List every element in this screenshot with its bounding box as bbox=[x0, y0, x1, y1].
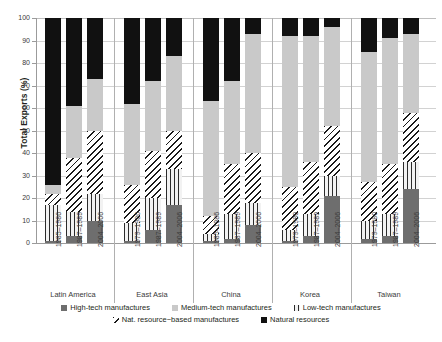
segment-low-tech bbox=[166, 169, 182, 205]
legend-swatch-icon bbox=[61, 305, 67, 311]
segment-natural-resources bbox=[303, 18, 319, 36]
x-axis-tick-label: 2004–2006 bbox=[334, 212, 341, 247]
segment-medium-tech bbox=[382, 38, 398, 164]
segment-natural-resources bbox=[282, 18, 298, 36]
x-axis-tick-label: 1985–1986 bbox=[213, 212, 220, 247]
group-separator bbox=[272, 18, 273, 303]
legend-swatch-icon bbox=[172, 305, 178, 311]
legend-label: High-tech manufactures bbox=[70, 303, 150, 312]
stacked-bar[interactable] bbox=[403, 18, 419, 243]
stacked-bar[interactable] bbox=[124, 18, 140, 243]
segment-low-tech bbox=[403, 162, 419, 189]
segment-nat-resource-based bbox=[224, 164, 240, 214]
segment-nat-resource-based bbox=[303, 162, 319, 214]
stacked-bar[interactable] bbox=[145, 18, 161, 243]
stacked-bar[interactable] bbox=[224, 18, 240, 243]
x-axis-tick-label: 1979–1980 bbox=[134, 212, 141, 247]
legend-swatch-icon bbox=[113, 317, 119, 323]
segment-medium-tech bbox=[303, 36, 319, 162]
segment-nat-resource-based bbox=[166, 131, 182, 169]
legend-row: High-tech manufacturesMedium-tech manufa… bbox=[0, 303, 442, 312]
segment-natural-resources bbox=[45, 18, 61, 185]
segment-medium-tech bbox=[282, 36, 298, 187]
segment-natural-resources bbox=[87, 18, 103, 79]
y-axis-tick-label: 30 bbox=[0, 172, 30, 179]
segment-natural-resources bbox=[324, 18, 340, 27]
segment-nat-resource-based bbox=[66, 158, 82, 212]
segment-nat-resource-based bbox=[245, 153, 261, 203]
stacked-bar[interactable] bbox=[382, 18, 398, 243]
y-axis-tick-label: 90 bbox=[0, 37, 30, 44]
legend-swatch-icon bbox=[294, 305, 300, 311]
y-axis-tick-label: 20 bbox=[0, 194, 30, 201]
group-separator bbox=[351, 18, 352, 303]
segment-natural-resources bbox=[403, 18, 419, 34]
y-axis-tick-label: 60 bbox=[0, 104, 30, 111]
y-axis-tick-label: 0 bbox=[0, 239, 30, 246]
segment-natural-resources bbox=[203, 18, 219, 101]
x-axis-tick-label: 1987–1989 bbox=[155, 212, 162, 247]
x-axis-tick-label: 2004–2006 bbox=[97, 212, 104, 247]
group-separator bbox=[193, 18, 194, 303]
stacked-bar[interactable] bbox=[203, 18, 219, 243]
stacked-bar[interactable] bbox=[361, 18, 377, 243]
segment-nat-resource-based bbox=[324, 126, 340, 176]
x-axis-tick-label: 1979–1980 bbox=[371, 212, 378, 247]
legend-label: Nat. resource−based manufactures bbox=[122, 315, 239, 324]
legend-item[interactable]: Low-tech manufactures bbox=[294, 303, 381, 312]
y-axis-tick-label: 50 bbox=[0, 127, 30, 134]
stacked-bar[interactable] bbox=[45, 18, 61, 243]
segment-medium-tech bbox=[224, 81, 240, 164]
legend-row: Nat. resource−based manufacturesNatural … bbox=[0, 315, 442, 324]
segment-medium-tech bbox=[361, 52, 377, 183]
segment-natural-resources bbox=[66, 18, 82, 106]
legend-item[interactable]: Medium-tech manufactures bbox=[172, 303, 272, 312]
segment-natural-resources bbox=[124, 18, 140, 104]
stacked-bar[interactable] bbox=[66, 18, 82, 243]
legend-label: Low-tech manufactures bbox=[303, 303, 381, 312]
legend-label: Medium-tech manufactures bbox=[181, 303, 272, 312]
legend-label: Natural resources bbox=[270, 315, 329, 324]
x-axis-tick-label: 2004–2006 bbox=[255, 212, 262, 247]
y-axis-tick-label: 40 bbox=[0, 149, 30, 156]
segment-medium-tech bbox=[324, 27, 340, 126]
segment-medium-tech bbox=[87, 79, 103, 131]
segment-medium-tech bbox=[145, 81, 161, 151]
stacked-bar[interactable] bbox=[324, 18, 340, 243]
segment-nat-resource-based bbox=[87, 131, 103, 194]
x-axis-tick-label: 1987–1989 bbox=[392, 212, 399, 247]
segment-nat-resource-based bbox=[45, 194, 61, 205]
segment-natural-resources bbox=[145, 18, 161, 81]
x-axis-group-label: Taiwan bbox=[340, 290, 438, 299]
segment-nat-resource-based bbox=[403, 113, 419, 163]
segment-natural-resources bbox=[361, 18, 377, 52]
segment-natural-resources bbox=[224, 18, 240, 81]
stacked-bar[interactable] bbox=[245, 18, 261, 243]
group-separator bbox=[114, 18, 115, 303]
stacked-bar[interactable] bbox=[87, 18, 103, 243]
segment-medium-tech bbox=[403, 34, 419, 113]
segment-nat-resource-based bbox=[145, 151, 161, 198]
segment-natural-resources bbox=[245, 18, 261, 34]
x-axis-tick-label: 1979–1980 bbox=[292, 212, 299, 247]
x-axis-tick-label: 2004–2006 bbox=[413, 212, 420, 247]
x-axis-tick-label: 2004–2006 bbox=[176, 212, 183, 247]
y-axis-tick-label: 70 bbox=[0, 82, 30, 89]
x-axis-tick-label: 1985–1986 bbox=[55, 212, 62, 247]
segment-medium-tech bbox=[166, 56, 182, 130]
y-axis-tick-label: 10 bbox=[0, 217, 30, 224]
legend-item[interactable]: High-tech manufactures bbox=[61, 303, 150, 312]
x-axis-tick-label: 1987–1989 bbox=[76, 212, 83, 247]
segment-natural-resources bbox=[166, 18, 182, 56]
chart-legend: High-tech manufacturesMedium-tech manufa… bbox=[0, 303, 442, 327]
stacked-bar[interactable] bbox=[303, 18, 319, 243]
segment-medium-tech bbox=[66, 106, 82, 158]
chart-figure: Total Exports (%) 0102030405060708090100… bbox=[0, 0, 442, 342]
stacked-bar[interactable] bbox=[282, 18, 298, 243]
legend-item[interactable]: Nat. resource−based manufactures bbox=[113, 315, 239, 324]
plot-area bbox=[36, 18, 436, 244]
y-axis-tick-label: 80 bbox=[0, 59, 30, 66]
x-axis-tick-label: 1987–1989 bbox=[313, 212, 320, 247]
stacked-bar[interactable] bbox=[166, 18, 182, 243]
legend-item[interactable]: Natural resources bbox=[261, 315, 329, 324]
